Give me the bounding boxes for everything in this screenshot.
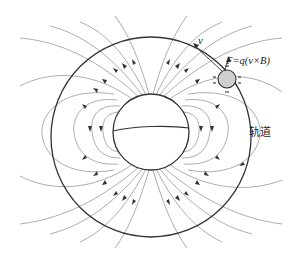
velocity-label: v [198, 34, 203, 46]
planet-sphere [113, 94, 189, 170]
charged-particle [213, 66, 241, 92]
field-lines-upper-left [20, 16, 149, 102]
magnetic-field-diagram: v F=q(v×B) 轨道 [0, 0, 299, 268]
orbit-label: 轨道 [249, 125, 271, 139]
force-label: F=q(v×B) [225, 55, 270, 67]
